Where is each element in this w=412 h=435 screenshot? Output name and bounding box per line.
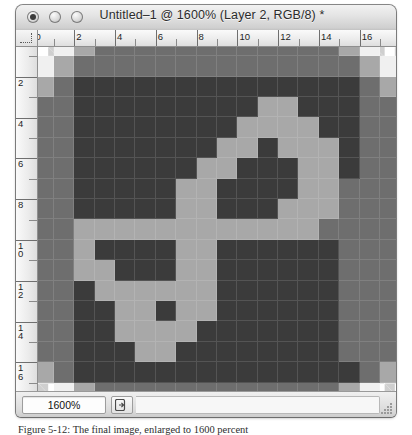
canvas-pixel[interactable] — [278, 281, 298, 301]
canvas-pixel[interactable] — [197, 47, 217, 56]
canvas-pixel[interactable] — [95, 158, 115, 178]
canvas-pixel[interactable] — [176, 342, 196, 362]
canvas-pixel[interactable] — [156, 97, 176, 117]
canvas-pixel[interactable] — [380, 77, 396, 97]
canvas-pixel[interactable] — [38, 301, 54, 321]
canvas-pixel[interactable] — [319, 47, 339, 56]
canvas-pixel[interactable] — [54, 97, 74, 117]
canvas-pixel[interactable] — [380, 219, 396, 239]
canvas-pixel[interactable] — [74, 199, 94, 219]
canvas-pixel[interactable] — [298, 138, 318, 158]
canvas-pixel[interactable] — [258, 158, 278, 178]
canvas-pixel[interactable] — [278, 117, 298, 137]
canvas-pixel[interactable] — [319, 158, 339, 178]
canvas-pixel[interactable] — [74, 281, 94, 301]
canvas-pixel[interactable] — [319, 342, 339, 362]
canvas-pixel[interactable] — [360, 158, 380, 178]
canvas-pixel[interactable] — [258, 199, 278, 219]
canvas-pixel[interactable] — [258, 240, 278, 260]
canvas-pixel[interactable] — [135, 138, 155, 158]
canvas-pixel[interactable] — [197, 219, 217, 239]
canvas-pixel[interactable] — [360, 77, 380, 97]
canvas-pixel[interactable] — [197, 179, 217, 199]
canvas-pixel[interactable] — [115, 77, 135, 97]
canvas-pixel[interactable] — [319, 179, 339, 199]
canvas-pixel[interactable] — [380, 301, 396, 321]
canvas-pixel[interactable] — [380, 321, 396, 341]
canvas-pixel[interactable] — [54, 158, 74, 178]
canvas-pixel[interactable] — [135, 260, 155, 280]
canvas-pixel[interactable] — [217, 362, 237, 382]
canvas-pixel[interactable] — [95, 281, 115, 301]
zoom-level-input[interactable]: 1600% — [22, 396, 106, 414]
canvas-pixel[interactable] — [95, 199, 115, 219]
canvas-pixel[interactable] — [176, 321, 196, 341]
canvas-pixel[interactable] — [339, 301, 359, 321]
canvas-pixel[interactable] — [319, 321, 339, 341]
canvas-pixel[interactable] — [339, 179, 359, 199]
canvas-pixel[interactable] — [217, 199, 237, 219]
canvas-pixel[interactable] — [339, 199, 359, 219]
canvas-pixel[interactable] — [339, 281, 359, 301]
canvas-pixel[interactable] — [74, 219, 94, 239]
canvas-pixel[interactable] — [319, 301, 339, 321]
canvas-pixel[interactable] — [176, 56, 196, 76]
canvas-pixel[interactable] — [38, 260, 54, 280]
canvas-pixel[interactable] — [380, 138, 396, 158]
canvas-pixel[interactable] — [176, 158, 196, 178]
canvas-pixel[interactable] — [95, 47, 115, 56]
canvas-pixel[interactable] — [258, 179, 278, 199]
canvas-pixel[interactable] — [258, 219, 278, 239]
canvas-pixel[interactable] — [319, 117, 339, 137]
canvas-pixel[interactable] — [258, 47, 278, 56]
canvas-pixel[interactable] — [115, 199, 135, 219]
canvas-pixel[interactable] — [115, 362, 135, 382]
canvas-pixel[interactable] — [319, 260, 339, 280]
canvas-pixel[interactable] — [217, 47, 237, 56]
canvas-pixel[interactable] — [54, 219, 74, 239]
canvas-pixel[interactable] — [339, 97, 359, 117]
canvas-pixel[interactable] — [54, 281, 74, 301]
window-statusbar[interactable]: 1600% — [16, 391, 396, 417]
canvas-pixel[interactable] — [176, 138, 196, 158]
canvas-pixel[interactable] — [74, 260, 94, 280]
canvas-pixel[interactable] — [38, 219, 54, 239]
canvas-pixel[interactable] — [237, 281, 257, 301]
canvas-pixel[interactable] — [135, 117, 155, 137]
canvas-pixel[interactable] — [135, 362, 155, 382]
photoshop-document-window[interactable]: Untitled–1 @ 1600% (Layer 2, RGB/8) * 02… — [16, 5, 396, 417]
canvas-pixel[interactable] — [197, 158, 217, 178]
canvas-pixel[interactable] — [38, 138, 54, 158]
canvas-pixel[interactable] — [380, 342, 396, 362]
canvas-pixel[interactable] — [156, 260, 176, 280]
canvas-pixel[interactable] — [278, 97, 298, 117]
canvas-pixel[interactable] — [38, 199, 54, 219]
canvas-pixel[interactable] — [258, 77, 278, 97]
canvas-pixel[interactable] — [217, 321, 237, 341]
canvas-pixel[interactable] — [278, 301, 298, 321]
canvas-pixel[interactable] — [156, 219, 176, 239]
canvas-pixel[interactable] — [156, 117, 176, 137]
canvas-pixel[interactable] — [115, 56, 135, 76]
canvas-pixel[interactable] — [156, 240, 176, 260]
canvas-pixel[interactable] — [176, 301, 196, 321]
canvas-pixel[interactable] — [115, 97, 135, 117]
canvas-pixel[interactable] — [237, 240, 257, 260]
canvas-pixel[interactable] — [278, 138, 298, 158]
canvas-pixel[interactable] — [319, 219, 339, 239]
canvas-pixel[interactable] — [319, 77, 339, 97]
canvas-pixel[interactable] — [135, 199, 155, 219]
canvas-pixel[interactable] — [258, 97, 278, 117]
canvas-pixel[interactable] — [278, 240, 298, 260]
canvas-pixel[interactable] — [135, 321, 155, 341]
canvas-pixel[interactable] — [278, 199, 298, 219]
canvas-pixel[interactable] — [258, 362, 278, 382]
canvas-pixel[interactable] — [135, 301, 155, 321]
canvas-pixel[interactable] — [298, 77, 318, 97]
canvas-pixel[interactable] — [156, 342, 176, 362]
canvas-pixel[interactable] — [258, 138, 278, 158]
canvas-pixel[interactable] — [298, 260, 318, 280]
canvas-pixel[interactable] — [360, 260, 380, 280]
canvas-pixel[interactable] — [156, 301, 176, 321]
canvas-pixel[interactable] — [278, 47, 298, 56]
